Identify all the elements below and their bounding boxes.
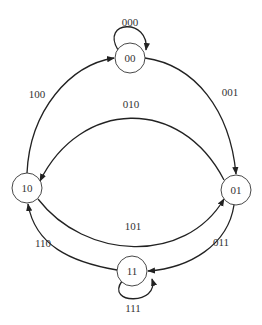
- edge-label-111: 111: [125, 302, 141, 314]
- state-node-11: 11: [117, 256, 147, 286]
- edge-label-101: 101: [125, 220, 142, 232]
- node-label: 00: [125, 52, 137, 64]
- node-label: 11: [127, 265, 138, 277]
- node-label: 10: [22, 182, 34, 194]
- state-diagram: 00 01 10 11 000 001 010 011 100 101 110 …: [0, 0, 262, 325]
- edge-label-011: 011: [213, 236, 229, 248]
- state-node-01: 01: [221, 175, 251, 205]
- node-label: 01: [231, 184, 242, 196]
- edge-label-001: 001: [222, 86, 239, 98]
- edge-label-010: 010: [123, 98, 140, 110]
- edge-10-00: [27, 58, 114, 173]
- edge-label-000: 000: [122, 16, 139, 28]
- state-node-10: 10: [12, 173, 42, 203]
- edge-label-100: 100: [29, 88, 46, 100]
- edge-label-110: 110: [35, 237, 52, 249]
- edge-01-10: [40, 118, 224, 181]
- edge-00-01: [145, 58, 236, 174]
- state-node-00: 00: [115, 43, 145, 73]
- diagram-svg: 00 01 10 11 000 001 010 011 100 101 110 …: [0, 0, 262, 325]
